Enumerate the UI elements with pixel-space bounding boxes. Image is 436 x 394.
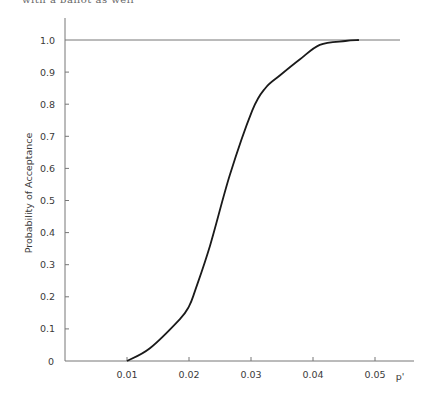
x-axis-label: p' [396, 371, 405, 382]
y-tick-label: 0.5 [40, 195, 55, 206]
y-tick-label: 0.2 [40, 291, 55, 302]
y-tick-label: 0.3 [40, 259, 55, 270]
y-tick-label: 0.4 [40, 227, 55, 238]
oc-curve-chart: 00.10.20.30.40.50.60.70.80.91.0 0.010.02… [0, 0, 436, 394]
x-tick-label: 0.04 [302, 369, 323, 380]
x-tick-label: 0.05 [364, 369, 385, 380]
y-tick-label: 0.9 [40, 67, 55, 78]
y-tick-label: 0.7 [40, 131, 55, 142]
x-tick-label: 0.02 [178, 369, 199, 380]
y-tick-label: 0.1 [40, 323, 55, 334]
y-tick-label: 1.0 [40, 35, 55, 46]
x-tick-label: 0.03 [240, 369, 261, 380]
x-tick-label: 0.01 [116, 369, 137, 380]
y-tick-label: 0 [48, 356, 54, 367]
y-tick-label: 0.8 [40, 99, 55, 110]
y-axis-label: Probability of Acceptance [23, 132, 34, 253]
axes [65, 18, 414, 361]
oc-curve-line [127, 40, 359, 361]
x-axis-ticks: 0.010.020.030.040.05 [116, 357, 385, 380]
y-tick-label: 0.6 [40, 163, 55, 174]
